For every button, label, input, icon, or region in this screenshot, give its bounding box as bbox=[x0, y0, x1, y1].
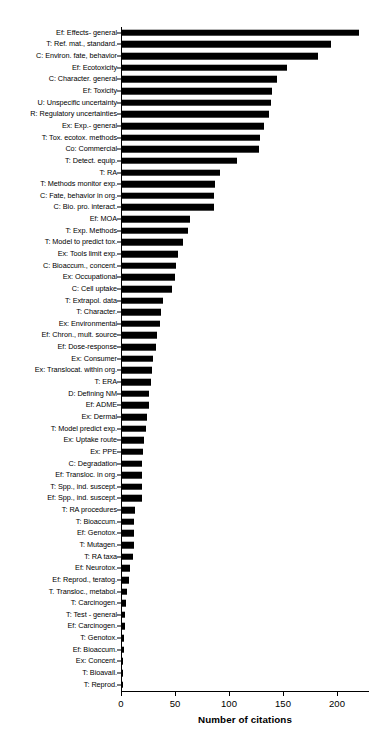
bar bbox=[121, 297, 163, 304]
chart-row: C: Cell uptake bbox=[0, 283, 385, 295]
bar bbox=[121, 530, 134, 537]
category-label: T. Transloc., metabol. bbox=[49, 588, 117, 596]
category-label: T: Model to predict tox. bbox=[45, 238, 117, 246]
chart-row: C: Degradation bbox=[0, 458, 385, 470]
chart-row: Ef: Carcinogen. bbox=[0, 621, 385, 633]
category-label: T: Methods monitor exp. bbox=[40, 180, 117, 188]
chart-row: Ex: Uptake route bbox=[0, 434, 385, 446]
bar bbox=[121, 41, 331, 48]
chart-row: Ef: Reprod., teratog. bbox=[0, 574, 385, 586]
bar bbox=[121, 227, 188, 234]
x-axis-tick bbox=[337, 692, 338, 696]
chart-row: Ex: Tools limit exp. bbox=[0, 248, 385, 260]
chart-row: Ex: Occupational bbox=[0, 271, 385, 283]
chart-row: Ex: Dermal bbox=[0, 411, 385, 423]
x-axis-title: Number of citations bbox=[121, 714, 369, 725]
bar bbox=[121, 390, 149, 397]
category-label: Ex: Tools limit exp. bbox=[58, 250, 117, 258]
chart-row: Ex: Environmental bbox=[0, 318, 385, 330]
chart-row: T: Mutagen. bbox=[0, 539, 385, 551]
category-label: T: Carcinogen. bbox=[71, 599, 117, 607]
category-label: U: Unspecific uncertainty bbox=[38, 99, 117, 107]
chart-row: Ef: Toxicity bbox=[0, 85, 385, 97]
category-label: Ex: Occupational bbox=[63, 273, 117, 281]
category-label: Ef: Carcinogen. bbox=[67, 622, 117, 630]
bar bbox=[121, 425, 146, 432]
chart-row: T: Tox. ecotox. methods bbox=[0, 132, 385, 144]
x-axis-tick-label: 150 bbox=[275, 698, 291, 709]
bar bbox=[121, 518, 134, 525]
chart-row: C: Fate, behavior in org. bbox=[0, 190, 385, 202]
chart-row: Ex: Concent. bbox=[0, 656, 385, 668]
x-axis-tick bbox=[121, 692, 122, 696]
chart-row: Ef: Genotox. bbox=[0, 528, 385, 540]
chart-row: T: Bioavail. bbox=[0, 667, 385, 679]
category-label: T: Tox. ecotox. methods bbox=[42, 134, 117, 142]
category-label: T: Spp., ind. suscept. bbox=[50, 483, 117, 491]
bar bbox=[121, 309, 161, 316]
chart-row: C: Bio. pro. interact. bbox=[0, 202, 385, 214]
y-axis-line bbox=[121, 27, 122, 691]
chart-row: T: Genotox. bbox=[0, 632, 385, 644]
bar bbox=[121, 495, 142, 502]
chart-row: T: RA taxa bbox=[0, 551, 385, 563]
bar bbox=[121, 332, 157, 339]
category-label: Ef: Spp., ind. suscept. bbox=[47, 494, 117, 502]
bar bbox=[121, 30, 359, 37]
bar bbox=[121, 64, 287, 71]
category-label: R: Regulatory uncertainties bbox=[30, 110, 117, 118]
category-label: Ex: PPE bbox=[90, 448, 117, 456]
category-label: Ex: Uptake route bbox=[63, 436, 117, 444]
category-label: Ex: Concent. bbox=[76, 657, 117, 665]
category-label: Ef: Neurotox. bbox=[75, 564, 117, 572]
category-label: Ef: Bioaccum. bbox=[73, 646, 117, 654]
chart-row: C: Bioaccum., concent. bbox=[0, 260, 385, 272]
chart-row: Ef: Spp., ind. suscept. bbox=[0, 493, 385, 505]
category-label: T: Extrapol. data bbox=[65, 297, 117, 305]
bar bbox=[121, 53, 318, 60]
x-axis-tick bbox=[175, 692, 176, 696]
chart-row: Ef: Neurotox. bbox=[0, 562, 385, 574]
x-axis-tick-label: 100 bbox=[221, 698, 237, 709]
chart-row: T: Spp., ind. suscept. bbox=[0, 481, 385, 493]
bar bbox=[121, 414, 147, 421]
chart-row: T: RA procedures bbox=[0, 504, 385, 516]
category-label: C: Bio. pro. interact. bbox=[54, 203, 117, 211]
bar bbox=[121, 553, 133, 560]
chart-row: T: Carcinogen. bbox=[0, 597, 385, 609]
bar bbox=[121, 355, 153, 362]
chart-row: T: Extrapol. data bbox=[0, 295, 385, 307]
chart-row: T: Bioaccum. bbox=[0, 516, 385, 528]
category-label: T: Model predict exp. bbox=[51, 425, 117, 433]
chart-row: Ex: Consumer bbox=[0, 353, 385, 365]
category-label: T: Mutagen. bbox=[79, 541, 117, 549]
category-label: Ef: ADME bbox=[86, 401, 117, 409]
bar bbox=[121, 472, 142, 479]
bar bbox=[121, 158, 237, 165]
bar bbox=[121, 192, 214, 199]
chart-row: T: Exp. Methods bbox=[0, 225, 385, 237]
category-label: Co: Commercial bbox=[65, 145, 117, 153]
category-label: D: Defining NM bbox=[68, 390, 117, 398]
bar bbox=[121, 437, 144, 444]
chart-rows: Ef: Effects- generalT: Ref. mat., standa… bbox=[0, 27, 385, 691]
category-label: T: Detect. equip. bbox=[65, 157, 117, 165]
category-label: T: RA taxa bbox=[84, 553, 117, 561]
category-label: Ex: Exp.- general bbox=[62, 122, 117, 130]
chart-row: T. Transloc., metabol. bbox=[0, 586, 385, 598]
chart-row: T: Methods monitor exp. bbox=[0, 178, 385, 190]
chart-row: Ef: Chron., mult. source bbox=[0, 330, 385, 342]
bar bbox=[121, 484, 142, 491]
category-label: C: Degradation bbox=[69, 460, 117, 468]
x-axis-line bbox=[121, 691, 369, 692]
bar bbox=[121, 123, 264, 130]
chart-row: Ef: MOA bbox=[0, 213, 385, 225]
bar bbox=[121, 216, 190, 223]
chart-row: T: Model to predict tox. bbox=[0, 237, 385, 249]
category-label: Ef: Genotox. bbox=[77, 529, 117, 537]
bar bbox=[121, 274, 175, 281]
bar bbox=[121, 542, 134, 549]
chart-row: Ex: PPE bbox=[0, 446, 385, 458]
category-label: C: Environ. fate, behavior bbox=[36, 52, 117, 60]
chart-row: Ex: Translocat. within org. bbox=[0, 365, 385, 377]
